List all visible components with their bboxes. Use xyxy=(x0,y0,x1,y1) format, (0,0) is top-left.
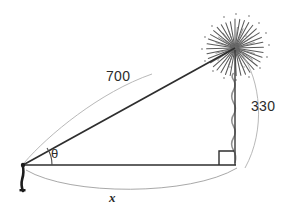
launch-point xyxy=(20,163,26,192)
label-vertical-330: 330 xyxy=(251,99,275,113)
right-angle-marker xyxy=(219,151,234,165)
label-hypotenuse-700: 700 xyxy=(106,69,130,83)
label-angle-theta: θ xyxy=(51,147,58,160)
dimension-arc-700 xyxy=(24,74,152,163)
firework-triangle-diagram: 700 330 θ x xyxy=(0,0,287,213)
diagram-canvas xyxy=(0,0,287,213)
dimension-arc-x xyxy=(26,168,237,189)
label-base-x: x xyxy=(109,191,116,204)
